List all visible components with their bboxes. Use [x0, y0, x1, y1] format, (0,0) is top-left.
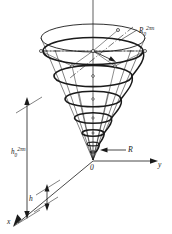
top-radius-leader-line [119, 30, 137, 41]
label-axis-y: y [158, 161, 161, 169]
label-small-radius: R [128, 146, 133, 154]
pitch-height-dimension [34, 180, 60, 212]
label-total-height-sub: 0 [15, 152, 18, 158]
label-axis-x: x [7, 218, 10, 226]
conical-helix-figure: R02πn h02πn h R 0 y x [0, 0, 172, 234]
label-pitch: h [29, 195, 33, 203]
label-total-height: h02πn [11, 147, 26, 158]
small-radius-leader [100, 148, 126, 153]
axis-y [93, 158, 158, 164]
label-top-radius: R02πn [139, 26, 154, 37]
label-origin: 0 [90, 164, 94, 172]
label-top-radius-sub: 0 [143, 31, 146, 37]
label-top-radius-sup: 2πn [146, 25, 154, 31]
label-total-height-sup: 2πn [17, 146, 25, 152]
axis-x [13, 161, 93, 227]
